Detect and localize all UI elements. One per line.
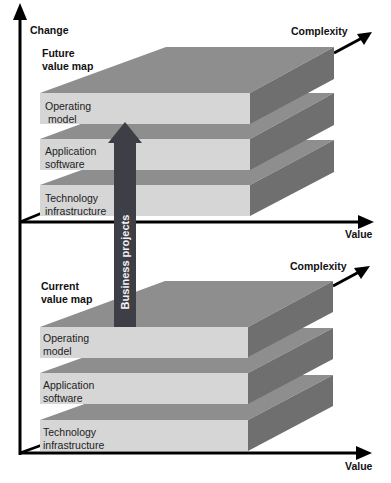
lower-complexity-label: Complexity <box>290 260 347 272</box>
change-axis <box>13 3 27 455</box>
upper-value-axis <box>20 215 374 229</box>
lower-value-label: Value <box>345 460 372 472</box>
upper-technology-label: Technology infrastructure <box>45 192 106 217</box>
lower-application-label: Application software <box>43 379 94 404</box>
upper-application-label: Application software <box>45 145 96 170</box>
diagram-canvas <box>0 0 391 483</box>
future-map-title: Future value map <box>42 47 93 72</box>
lower-operating-label: Operating model <box>43 332 89 357</box>
business-projects-label: Business projects <box>119 215 131 310</box>
upper-value-label: Value <box>345 228 372 240</box>
lower-technology-label: Technology infrastructure <box>43 426 104 451</box>
upper-complexity-label: Complexity <box>291 25 348 37</box>
current-map-title: Current value map <box>41 280 92 305</box>
upper-operating-label: Operating model <box>45 100 91 125</box>
change-axis-label: Change <box>30 24 69 36</box>
